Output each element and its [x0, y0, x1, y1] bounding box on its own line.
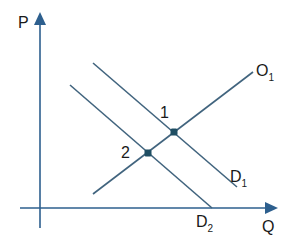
point-1-label: 1: [160, 104, 169, 121]
equilibrium-point-1: 1: [160, 104, 178, 136]
y-axis: P: [18, 12, 46, 228]
point-2-label: 2: [121, 144, 130, 161]
x-axis-arrow-icon: [265, 202, 278, 214]
equilibrium-point-2: 2: [121, 144, 152, 161]
curve-d1-label: D1: [230, 168, 248, 189]
curve-d2-label: D2: [196, 213, 214, 234]
x-axis: Q: [20, 202, 278, 235]
x-axis-label: Q: [262, 218, 274, 235]
y-axis-arrow-icon: [34, 12, 46, 25]
curve-d2: D2: [70, 85, 214, 234]
supply-demand-diagram: P Q O1 D1 D2 1 2: [0, 0, 290, 241]
point-marker-icon: [145, 150, 152, 157]
y-axis-label: P: [18, 14, 29, 31]
point-marker-icon: [171, 129, 178, 136]
curve-o1-label: O1: [256, 62, 274, 83]
